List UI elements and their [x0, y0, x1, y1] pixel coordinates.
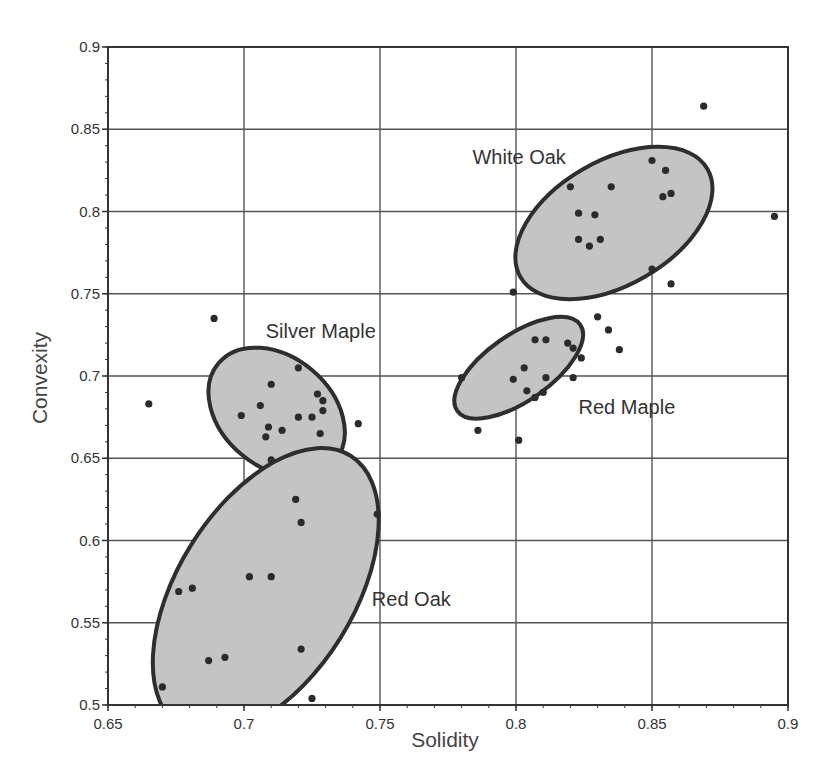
data-point: [521, 364, 528, 371]
data-point: [205, 657, 212, 664]
data-point: [268, 573, 275, 580]
data-point: [458, 374, 465, 381]
data-point: [662, 167, 669, 174]
chart-background: [0, 0, 836, 778]
data-point: [355, 420, 362, 427]
data-point: [474, 427, 481, 434]
data-point: [298, 645, 305, 652]
data-point: [268, 381, 275, 388]
data-point: [265, 423, 272, 430]
x-tick-label: 0.9: [778, 715, 799, 732]
y-tick-label: 0.7: [79, 367, 100, 384]
data-point: [531, 336, 538, 343]
data-point: [771, 213, 778, 220]
data-point: [298, 519, 305, 526]
data-point: [292, 496, 299, 503]
data-point: [175, 588, 182, 595]
y-tick-label: 0.85: [71, 120, 100, 137]
data-point: [542, 374, 549, 381]
data-point: [575, 236, 582, 243]
data-point: [257, 402, 264, 409]
data-point: [564, 340, 571, 347]
data-point: [542, 336, 549, 343]
data-point: [189, 585, 196, 592]
x-axis-title: Solidity: [411, 728, 479, 751]
data-point: [317, 430, 324, 437]
y-tick-label: 0.65: [71, 449, 100, 466]
cluster-label-silver-maple: Silver Maple: [266, 320, 376, 342]
data-point: [570, 374, 577, 381]
data-point: [567, 183, 574, 190]
data-point: [210, 315, 217, 322]
data-point: [648, 265, 655, 272]
cluster-label-red-maple: Red Maple: [579, 396, 676, 418]
data-point: [221, 654, 228, 661]
data-point: [159, 683, 166, 690]
data-point: [308, 414, 315, 421]
data-point: [608, 183, 615, 190]
data-point: [510, 376, 517, 383]
data-point: [238, 412, 245, 419]
y-tick-label: 0.6: [79, 532, 100, 549]
x-tick-label: 0.75: [365, 715, 394, 732]
data-point: [308, 695, 315, 702]
data-point: [278, 427, 285, 434]
data-point: [540, 389, 547, 396]
data-point: [262, 433, 269, 440]
y-axis-title: Convexity: [28, 331, 51, 424]
x-tick-label: 0.85: [637, 715, 666, 732]
data-point: [700, 103, 707, 110]
data-point: [295, 414, 302, 421]
data-point: [145, 400, 152, 407]
data-point: [314, 390, 321, 397]
cluster-label-red-oak: Red Oak: [372, 588, 452, 610]
x-tick-label: 0.8: [506, 715, 527, 732]
data-point: [578, 354, 585, 361]
data-point: [575, 210, 582, 217]
y-tick-label: 0.9: [79, 38, 100, 55]
data-point: [597, 236, 604, 243]
data-point: [594, 313, 601, 320]
data-point: [648, 157, 655, 164]
data-point: [667, 280, 674, 287]
data-point: [510, 289, 517, 296]
data-point: [531, 394, 538, 401]
x-tick-label: 0.65: [93, 715, 122, 732]
data-point: [319, 407, 326, 414]
data-point: [586, 242, 593, 249]
data-point: [295, 364, 302, 371]
y-tick-label: 0.5: [79, 696, 100, 713]
data-point: [374, 511, 381, 518]
y-tick-label: 0.75: [71, 285, 100, 302]
data-point: [616, 346, 623, 353]
data-point: [605, 326, 612, 333]
y-tick-label: 0.55: [71, 614, 100, 631]
data-point: [570, 344, 577, 351]
x-tick-label: 0.7: [234, 715, 255, 732]
data-point: [523, 387, 530, 394]
data-point: [246, 573, 253, 580]
data-point: [591, 211, 598, 218]
y-tick-label: 0.8: [79, 203, 100, 220]
data-point: [515, 437, 522, 444]
data-point: [659, 193, 666, 200]
data-point: [319, 397, 326, 404]
scatter-chart: 0.650.70.750.80.850.9 0.50.550.60.650.70…: [0, 0, 836, 778]
cluster-label-white-oak: White Oak: [472, 146, 566, 168]
data-point: [268, 456, 275, 463]
data-point: [667, 190, 674, 197]
